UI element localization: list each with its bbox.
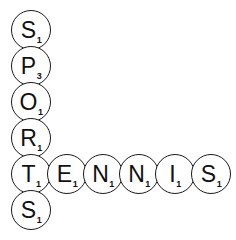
tile-point-value: 1: [38, 106, 43, 116]
tile-letter: N: [128, 160, 145, 186]
letter-tile-o[interactable]: O1: [11, 82, 51, 122]
tile-letter: I: [169, 160, 175, 186]
letter-tile-content: S1: [21, 18, 41, 41]
letter-tile-s[interactable]: S1: [191, 154, 231, 194]
letter-tile-content: S1: [201, 162, 221, 185]
tile-letter: S: [21, 16, 36, 42]
letter-tile-content: S1: [21, 198, 41, 221]
tile-letter: N: [92, 160, 109, 186]
tile-point-value: 1: [37, 214, 42, 224]
tile-letter: T: [21, 160, 35, 186]
tile-letter: S: [21, 196, 36, 222]
tile-letter: E: [57, 160, 72, 186]
letter-tile-content: T1: [21, 162, 40, 185]
tile-point-value: 1: [145, 178, 150, 188]
letter-tile-e[interactable]: E1: [47, 154, 87, 194]
tile-point-value: 1: [37, 34, 42, 44]
letter-tile-n[interactable]: N1: [119, 154, 159, 194]
tile-letter: R: [20, 124, 37, 150]
letter-tile-content: E1: [57, 162, 77, 185]
puzzle-canvas: S1P3O1R1T1S1E1N1N1I1S1: [0, 0, 236, 240]
tile-letter: P: [21, 52, 36, 78]
tile-letter: O: [20, 88, 38, 114]
letter-tile-s[interactable]: S1: [11, 190, 51, 230]
letter-tile-content: N1: [92, 162, 114, 185]
letter-tile-content: O1: [20, 90, 43, 113]
tile-point-value: 1: [109, 178, 114, 188]
letter-tile-p[interactable]: P3: [11, 46, 51, 86]
letter-tile-i[interactable]: I1: [155, 154, 195, 194]
letter-tile-content: N1: [128, 162, 150, 185]
tile-letter: S: [201, 160, 216, 186]
letter-tile-t[interactable]: T1: [11, 154, 51, 194]
tile-point-value: 1: [36, 178, 41, 188]
tile-point-value: 3: [37, 70, 42, 80]
letter-tile-content: P3: [21, 54, 41, 77]
tile-point-value: 1: [176, 178, 181, 188]
letter-tile-n[interactable]: N1: [83, 154, 123, 194]
letter-tile-content: R1: [20, 126, 42, 149]
tile-point-value: 1: [73, 178, 78, 188]
letter-tile-r[interactable]: R1: [11, 118, 51, 158]
letter-tile-content: I1: [169, 162, 180, 185]
tile-point-value: 1: [217, 178, 222, 188]
letter-tile-s[interactable]: S1: [11, 10, 51, 50]
tile-point-value: 1: [37, 142, 42, 152]
